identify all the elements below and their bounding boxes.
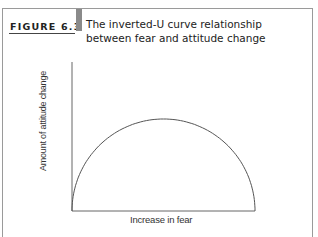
inverted-u-curve — [72, 119, 255, 211]
y-axis-label: Amount of attitude change — [38, 61, 48, 181]
x-axis-label: Increase in fear — [130, 214, 192, 225]
